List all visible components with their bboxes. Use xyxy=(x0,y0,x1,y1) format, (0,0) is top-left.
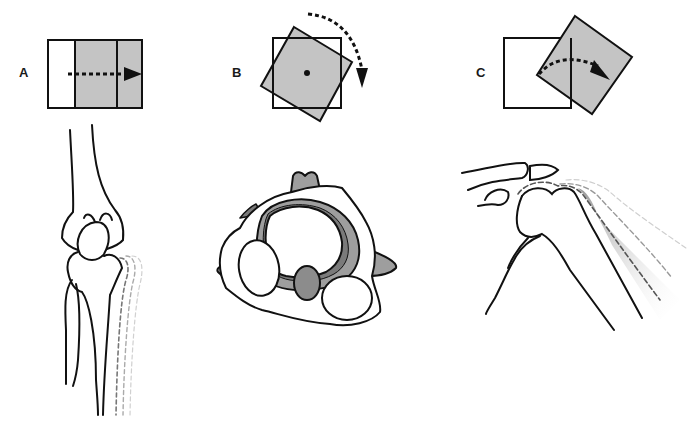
rotation-schematic xyxy=(261,14,368,121)
knee-anatomy xyxy=(62,125,142,415)
rotation-center-dot xyxy=(304,70,310,76)
shoulder-anatomy xyxy=(462,163,686,330)
arrow-down-icon xyxy=(356,68,368,88)
vertebra-anatomy xyxy=(217,172,396,325)
figure-canvas xyxy=(0,0,696,424)
translation-schematic xyxy=(48,40,142,108)
angular-schematic xyxy=(504,16,632,114)
